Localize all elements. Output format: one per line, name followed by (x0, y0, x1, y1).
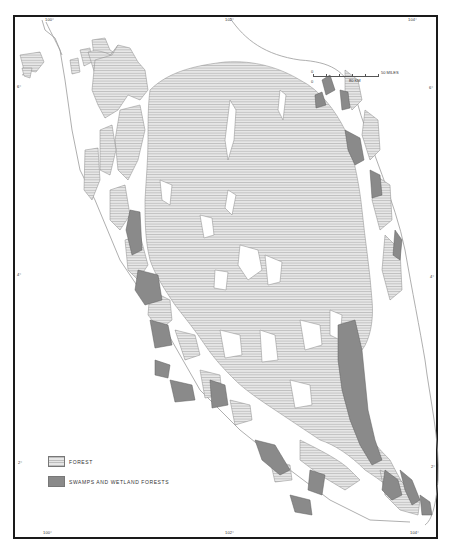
lon-label-top-102: 102° (225, 17, 234, 22)
lat-label-left-6: 6° (17, 84, 21, 89)
scale-tick (352, 74, 353, 77)
lon-label-top-100: 100° (45, 17, 54, 22)
scale-line (313, 76, 379, 77)
scale-bar: 0 50 MILES 0 80 KM (311, 67, 391, 85)
scale-tick (378, 74, 379, 77)
scale-km-label: 80 KM (349, 78, 361, 83)
scale-miles-label: 50 MILES (381, 70, 399, 75)
swamp-swatch (48, 476, 65, 487)
legend-item-forest: FOREST (48, 456, 169, 467)
lon-label-top-104: 104° (408, 17, 417, 22)
lat-label-right-6: 6° (429, 85, 433, 90)
lat-label-right-4: 4° (430, 274, 434, 279)
lon-label-bottom-100: 100° (43, 530, 52, 535)
legend-label-forest: FOREST (69, 459, 93, 465)
lat-label-left-4: 4° (17, 272, 21, 277)
scale-tick (339, 74, 340, 77)
scale-km-zero: 0 (311, 79, 313, 84)
forest-swatch (48, 456, 65, 467)
legend-item-swamp: SWAMPS AND WETLAND FORESTS (48, 476, 169, 487)
lat-label-left-2: 2° (18, 460, 22, 465)
map-legend: FOREST SWAMPS AND WETLAND FORESTS (48, 456, 169, 496)
scale-tick (365, 74, 366, 77)
scale-tick (326, 74, 327, 77)
scale-tick (313, 74, 314, 77)
lon-label-bottom-104: 104° (410, 530, 419, 535)
lon-label-bottom-102: 102° (225, 530, 234, 535)
lat-label-right-2: 2° (431, 464, 435, 469)
legend-label-swamp: SWAMPS AND WETLAND FORESTS (69, 479, 169, 485)
